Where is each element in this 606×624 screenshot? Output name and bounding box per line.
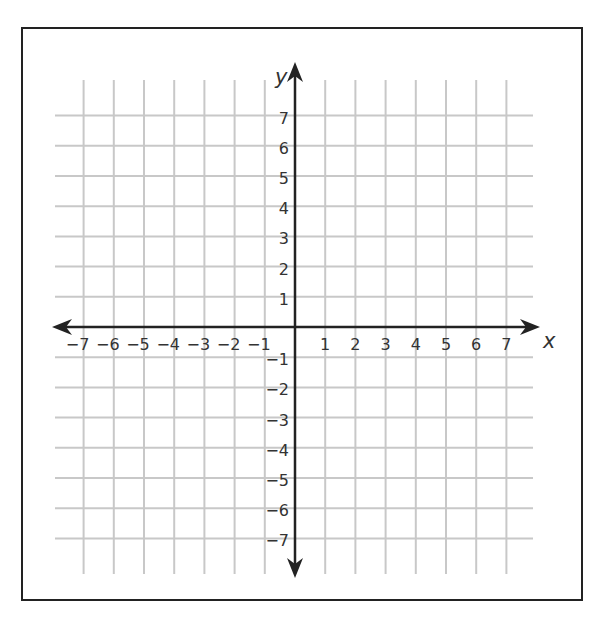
x-tick-label: 1 (320, 335, 330, 354)
y-tick-labels: 7654321−1−2−3−4−5−6−7 (265, 109, 289, 551)
coordinate-plane: x y −7−6−5−4−3−2−11234567 7654321−1−2−3−… (0, 0, 606, 624)
x-tick-label: 7 (501, 335, 511, 354)
y-axis-label: y (274, 65, 288, 89)
y-tick-label: 6 (279, 139, 289, 158)
x-tick-label: 6 (471, 335, 481, 354)
x-tick-label: −3 (187, 335, 211, 354)
y-tick-label: 3 (279, 229, 289, 248)
y-tick-label: −7 (265, 531, 289, 550)
y-tick-label: −4 (265, 441, 289, 460)
x-tick-label: −7 (66, 335, 90, 354)
x-tick-label: 2 (350, 335, 360, 354)
x-tick-label: 4 (411, 335, 421, 354)
y-tick-label: 7 (279, 109, 289, 128)
y-tick-label: 4 (279, 199, 289, 218)
x-axis-label: x (542, 329, 556, 353)
x-tick-label: −4 (156, 335, 180, 354)
y-tick-label: −3 (265, 411, 289, 430)
x-tick-label: 5 (441, 335, 451, 354)
x-tick-label: −6 (96, 335, 120, 354)
y-tick-label: −2 (265, 380, 289, 399)
y-tick-label: −6 (265, 501, 289, 520)
y-tick-label: −1 (265, 350, 289, 369)
x-tick-label: 3 (381, 335, 391, 354)
x-tick-label: −5 (126, 335, 150, 354)
y-tick-label: 1 (279, 290, 289, 309)
y-tick-label: 5 (279, 169, 289, 188)
axes (52, 62, 540, 578)
y-tick-label: 2 (279, 260, 289, 279)
y-tick-label: −5 (265, 471, 289, 490)
x-tick-label: −2 (217, 335, 241, 354)
